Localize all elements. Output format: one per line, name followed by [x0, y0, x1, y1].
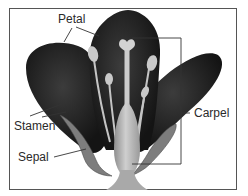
style [125, 50, 130, 110]
sepal-leader-line [54, 149, 86, 157]
petal-leader-line-2 [76, 27, 99, 36]
sepal-label: Sepal [18, 151, 49, 163]
flower-illustration [0, 0, 248, 196]
stem [106, 170, 148, 190]
carpel-label: Carpel [194, 107, 229, 119]
stamen-label: Stamen [14, 120, 55, 132]
petal-leader-line-1 [64, 28, 72, 42]
petal-label: Petal [58, 13, 85, 25]
